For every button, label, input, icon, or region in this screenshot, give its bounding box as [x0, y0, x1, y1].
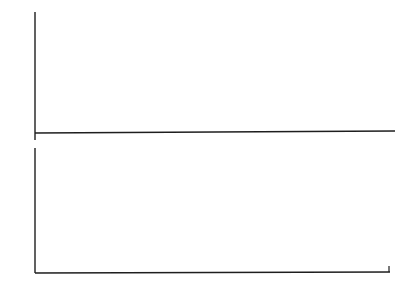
bottom-line-chart	[35, 148, 390, 273]
bottom-x-axis	[35, 272, 390, 273]
top-bar-chart	[35, 12, 395, 140]
top-x-axis	[35, 131, 395, 133]
figure	[0, 0, 407, 300]
